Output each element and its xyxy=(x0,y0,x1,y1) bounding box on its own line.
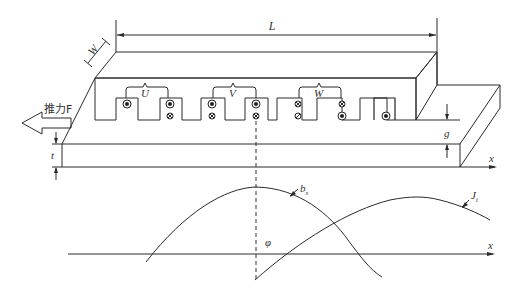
phase-brackets: U V W xyxy=(126,83,341,99)
airgap-dimension: g xyxy=(444,104,450,158)
conductor-cross-icon xyxy=(339,101,345,107)
conductor-cross-icon xyxy=(295,113,301,119)
width-label: W xyxy=(85,42,101,57)
phase-w-label: W xyxy=(314,87,324,99)
phase-angle-label: φ xyxy=(265,236,271,248)
conductor-dot-icon xyxy=(338,112,346,120)
current-density-curve xyxy=(255,197,490,280)
waveform-plot: x bs Jt φ xyxy=(68,182,495,280)
conductor-dot-icon xyxy=(208,100,216,108)
phase-v-label: V xyxy=(229,87,237,99)
current-density-label: Jt xyxy=(471,189,479,204)
conductor-cross-icon xyxy=(167,113,173,119)
thickness-dimension: t xyxy=(51,132,62,180)
flux-density-label: bs xyxy=(300,182,309,197)
conductors xyxy=(123,98,395,120)
width-dimension: W xyxy=(84,38,110,67)
conductor-dot-icon xyxy=(252,100,260,108)
secondary-axis-label: x xyxy=(488,152,494,164)
airgap-label: g xyxy=(444,127,450,139)
thrust-label: 推力F xyxy=(44,102,72,116)
flux-density-curve xyxy=(146,187,382,277)
phase-u-label: U xyxy=(141,87,150,99)
conductor-dot-icon xyxy=(123,100,131,108)
conductor-cross-icon xyxy=(209,113,215,119)
conductor-cross-icon xyxy=(295,101,301,107)
waveform-x-axis-label: x xyxy=(487,239,493,251)
conductor-dot-icon xyxy=(166,100,174,108)
conductor-cross-icon xyxy=(253,113,259,119)
thickness-label: t xyxy=(51,149,55,161)
linear-motor-diagram: L W U V W xyxy=(0,0,519,300)
length-label: L xyxy=(268,19,276,33)
conductor-dot-icon xyxy=(382,112,390,120)
